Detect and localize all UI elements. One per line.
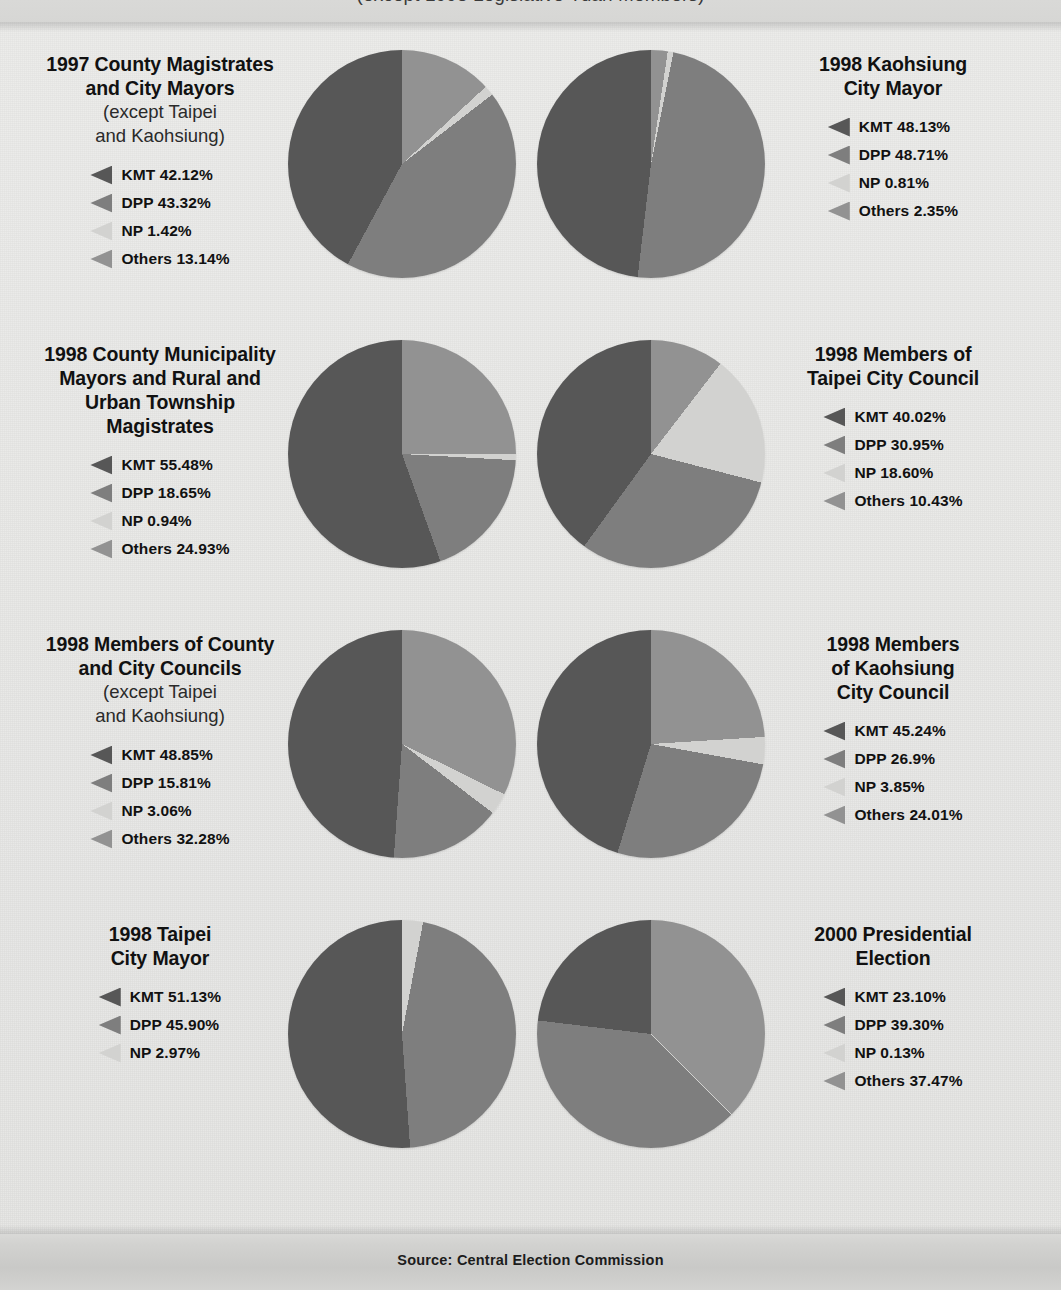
legend-label: KMT 51.13% bbox=[130, 988, 221, 1006]
chart-legend: KMT 23.10%DPP 39.30%NP 0.13%Others 37.47… bbox=[823, 983, 962, 1095]
legend-row: KMT 51.13% bbox=[99, 983, 221, 1011]
legend-label: DPP 45.90% bbox=[130, 1016, 219, 1034]
chart-cell-inner: 1998 County MunicipalityMayors and Rural… bbox=[0, 332, 530, 622]
legend-label: Others 32.28% bbox=[121, 830, 229, 848]
pie-chart-wrap bbox=[288, 50, 516, 278]
legend-label: DPP 26.9% bbox=[854, 750, 935, 768]
chart-legend: KMT 48.85%DPP 15.81%NP 3.06%Others 32.28… bbox=[90, 741, 229, 853]
pie-chart-wrap bbox=[537, 50, 765, 278]
chart-title-line: Taipei City Council bbox=[743, 366, 1043, 390]
chart-cell-inner: 1998 KaohsiungCity MayorKMT 48.13%DPP 48… bbox=[531, 42, 1061, 332]
legend-row: Others 37.47% bbox=[823, 1067, 962, 1095]
legend-row: KMT 40.02% bbox=[823, 403, 962, 431]
legend-label: DPP 18.65% bbox=[121, 484, 210, 502]
chart-title-line: 1998 Members of bbox=[743, 342, 1043, 366]
chart-text-block: 1998 County MunicipalityMayors and Rural… bbox=[14, 342, 306, 563]
legend-label: KMT 45.24% bbox=[854, 722, 945, 740]
pie-chart-wrap bbox=[537, 340, 765, 568]
chart-legend: KMT 55.48%DPP 18.65%NP 0.94%Others 24.93… bbox=[90, 451, 229, 563]
legend-row: Others 32.28% bbox=[90, 825, 229, 853]
legend-row: NP 2.97% bbox=[99, 1039, 221, 1067]
chart-title-line: 2000 Presidential bbox=[743, 922, 1043, 946]
legend-label: KMT 42.12% bbox=[121, 166, 212, 184]
legend-swatch-dpp-icon bbox=[99, 1016, 121, 1035]
legend-label: Others 37.47% bbox=[854, 1072, 962, 1090]
legend-swatch-dpp-icon bbox=[823, 1016, 845, 1035]
chart-title-line: 1998 Members of County bbox=[14, 632, 306, 656]
chart-cell-inner: 1998 TaipeiCity MayorKMT 51.13%DPP 45.90… bbox=[0, 912, 530, 1202]
legend-label: DPP 43.32% bbox=[121, 194, 210, 212]
legend-swatch-kmt-icon bbox=[90, 746, 112, 765]
legend-row: KMT 45.24% bbox=[823, 717, 962, 745]
legend-row: Others 13.14% bbox=[90, 245, 229, 273]
chart-legend: KMT 51.13%DPP 45.90%NP 2.97% bbox=[99, 983, 221, 1067]
chart-subtitle-line: and Kaohsiung) bbox=[14, 704, 306, 728]
legend-swatch-dpp-icon bbox=[90, 774, 112, 793]
chart-subtitle-line: (except Taipei bbox=[14, 680, 306, 704]
chart-cell: 1998 KaohsiungCity MayorKMT 48.13%DPP 48… bbox=[531, 42, 1061, 332]
legend-swatch-dpp-icon bbox=[90, 194, 112, 213]
legend-swatch-others-icon bbox=[823, 1072, 845, 1091]
chart-title-line: 1998 Kaohsiung bbox=[743, 52, 1043, 76]
legend-row: DPP 15.81% bbox=[90, 769, 229, 797]
legend-label: KMT 40.02% bbox=[854, 408, 945, 426]
legend-label: Others 13.14% bbox=[121, 250, 229, 268]
legend-swatch-kmt-icon bbox=[90, 166, 112, 185]
legend-label: KMT 23.10% bbox=[854, 988, 945, 1006]
legend-row: KMT 42.12% bbox=[90, 161, 229, 189]
legend-row: DPP 26.9% bbox=[823, 745, 962, 773]
chart-title-line: and City Mayors bbox=[14, 76, 306, 100]
chart-legend: KMT 48.13%DPP 48.71%NP 0.81%Others 2.35% bbox=[828, 113, 958, 225]
legend-label: NP 0.13% bbox=[854, 1044, 924, 1062]
chart-cell: 1998 Members of Countyand City Councils(… bbox=[0, 622, 530, 912]
legend-swatch-others-icon bbox=[823, 806, 845, 825]
chart-title-line: 1997 County Magistrates bbox=[14, 52, 306, 76]
legend-label: NP 3.85% bbox=[854, 778, 924, 796]
legend-label: DPP 48.71% bbox=[859, 146, 948, 164]
chart-cell: 1998 County MunicipalityMayors and Rural… bbox=[0, 332, 530, 622]
legend-swatch-kmt-icon bbox=[99, 988, 121, 1007]
pie-chart bbox=[537, 50, 765, 278]
chart-title-line: 1998 County Municipality bbox=[14, 342, 306, 366]
pie-chart-wrap bbox=[288, 920, 516, 1148]
legend-label: NP 3.06% bbox=[121, 802, 191, 820]
pie-chart bbox=[288, 50, 516, 278]
legend-row: KMT 48.13% bbox=[828, 113, 958, 141]
chart-text-block: 1998 TaipeiCity MayorKMT 51.13%DPP 45.90… bbox=[14, 922, 306, 1067]
legend-swatch-kmt-icon bbox=[90, 456, 112, 475]
legend-row: DPP 48.71% bbox=[828, 141, 958, 169]
chart-title-line: 1998 Taipei bbox=[14, 922, 306, 946]
legend-row: DPP 45.90% bbox=[99, 1011, 221, 1039]
legend-swatch-others-icon bbox=[90, 540, 112, 559]
legend-swatch-np-icon bbox=[823, 1044, 845, 1063]
legend-row: DPP 39.30% bbox=[823, 1011, 962, 1039]
pie-chart bbox=[537, 340, 765, 568]
legend-row: DPP 43.32% bbox=[90, 189, 229, 217]
legend-label: Others 10.43% bbox=[854, 492, 962, 510]
legend-label: NP 2.97% bbox=[130, 1044, 200, 1062]
chart-cell: 1997 County Magistratesand City Mayors(e… bbox=[0, 42, 530, 332]
legend-row: NP 0.13% bbox=[823, 1039, 962, 1067]
pie-chart-wrap bbox=[537, 920, 765, 1148]
legend-row: Others 2.35% bbox=[828, 197, 958, 225]
chart-text-block: 1998 KaohsiungCity MayorKMT 48.13%DPP 48… bbox=[743, 52, 1043, 225]
chart-cell-inner: 1998 Membersof KaohsiungCity CouncilKMT … bbox=[531, 622, 1061, 912]
chart-cell-inner: 1998 Members of Countyand City Councils(… bbox=[0, 622, 530, 912]
legend-swatch-dpp-icon bbox=[90, 484, 112, 503]
legend-label: Others 24.01% bbox=[854, 806, 962, 824]
pie-chart bbox=[288, 340, 516, 568]
chart-title-line: City Mayor bbox=[14, 946, 306, 970]
legend-row: NP 18.60% bbox=[823, 459, 962, 487]
legend-label: NP 0.81% bbox=[859, 174, 929, 192]
chart-cell: 1998 TaipeiCity MayorKMT 51.13%DPP 45.90… bbox=[0, 912, 530, 1202]
chart-title-line: Election bbox=[743, 946, 1043, 970]
chart-cell: 2000 PresidentialElectionKMT 23.10%DPP 3… bbox=[531, 912, 1061, 1202]
chart-title-line: Mayors and Rural and bbox=[14, 366, 306, 390]
charts-grid: 1997 County Magistratesand City Mayors(e… bbox=[0, 32, 1061, 1222]
legend-row: DPP 18.65% bbox=[90, 479, 229, 507]
legend-swatch-np-icon bbox=[99, 1044, 121, 1063]
legend-label: Others 24.93% bbox=[121, 540, 229, 558]
legend-label: NP 1.42% bbox=[121, 222, 191, 240]
legend-label: NP 0.94% bbox=[121, 512, 191, 530]
legend-row: NP 0.81% bbox=[828, 169, 958, 197]
